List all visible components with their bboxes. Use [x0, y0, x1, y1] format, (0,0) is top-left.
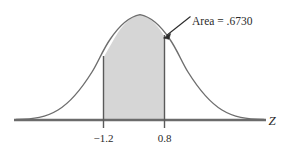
- area-annotation-label: Area = .6730: [192, 15, 253, 27]
- axis-label-z: Z: [268, 113, 276, 128]
- normal-curve-figure: Area = .6730 −1.2 0.8 Z: [0, 0, 290, 156]
- annotation-arrow: [164, 17, 191, 40]
- tick-label-upper: 0.8: [158, 132, 172, 144]
- tick-label-lower: −1.2: [94, 132, 114, 144]
- shaded-area-region: [104, 15, 165, 120]
- figure-canvas: Area = .6730 −1.2 0.8 Z: [0, 0, 290, 156]
